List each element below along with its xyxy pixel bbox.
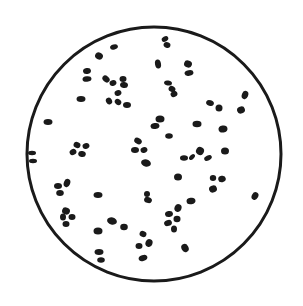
background (0, 0, 303, 306)
particle (165, 133, 173, 139)
particle (131, 147, 139, 153)
particle (174, 216, 181, 222)
petri-dish-figure (0, 0, 303, 306)
particle (180, 155, 188, 161)
particle (63, 221, 70, 227)
edge-mark (29, 159, 37, 163)
particle (44, 119, 53, 125)
particle (120, 224, 128, 230)
particle (69, 214, 76, 220)
particle (156, 116, 165, 123)
particle (216, 105, 223, 112)
particle (120, 76, 127, 82)
particle (97, 257, 105, 263)
particle (95, 249, 104, 255)
particle (94, 192, 103, 198)
particle (54, 183, 62, 189)
particle (123, 102, 131, 108)
particle-field-diagram (0, 0, 303, 306)
particle (77, 96, 86, 102)
particle (136, 243, 143, 249)
particle (193, 121, 202, 127)
particle (56, 190, 64, 196)
particle (94, 228, 103, 235)
edge-mark (28, 151, 36, 155)
particle (60, 214, 66, 221)
particle (144, 191, 150, 197)
particle (210, 175, 216, 181)
particle (171, 226, 177, 233)
particle (174, 174, 182, 181)
particle (221, 148, 229, 155)
